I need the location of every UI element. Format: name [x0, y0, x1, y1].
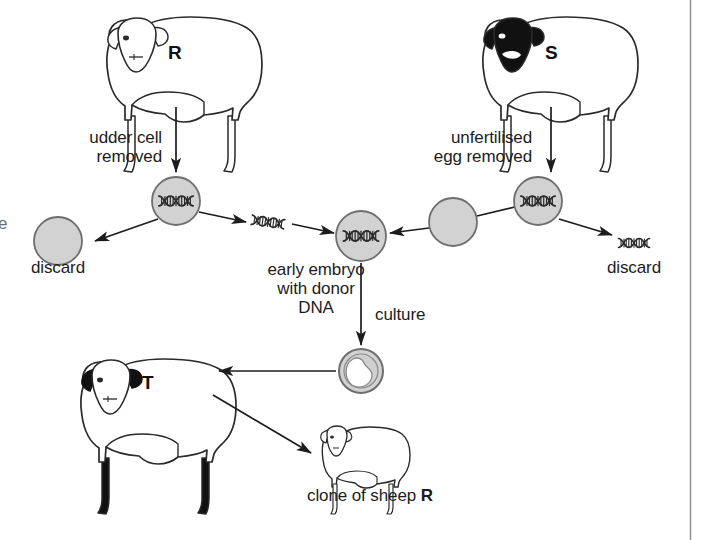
- arrow-udder-cell-to-dna: [199, 212, 246, 222]
- free-dna-discarded-egg: [618, 239, 649, 248]
- cell-blastocyst: [339, 349, 383, 393]
- arrow-egg-to-discard-dna: [559, 219, 612, 235]
- cloning-diagram-figure: e udder cell removed unfertilised egg re…: [0, 0, 708, 540]
- label-early-embryo: early embryo with donor DNA: [236, 260, 396, 317]
- sheep-letter-R: R: [168, 42, 182, 64]
- clipped-margin-text: e: [0, 214, 7, 234]
- cell-enucleated-egg: [429, 198, 477, 246]
- label-unfertilised-egg-removed: unfertilised egg removed: [398, 128, 532, 166]
- clone-label-text: clone of sheep: [307, 486, 421, 505]
- cell-udder-cell-nucleus: [152, 177, 200, 225]
- cell-early-embryo: [336, 211, 386, 261]
- clone-label-sheep-id: R: [421, 486, 433, 505]
- label-culture: culture: [375, 305, 425, 324]
- label-discard-right: discard: [586, 258, 682, 277]
- sheep-letter-S: S: [545, 42, 558, 64]
- arrow-dna-to-embryo: [292, 224, 334, 233]
- free-dna-donor-transfer: [251, 215, 285, 229]
- label-udder-cell-removed: udder cell removed: [28, 128, 162, 166]
- cell-unfertilised-egg-nucleus: [514, 177, 562, 225]
- label-clone-of-sheep: clone of sheep R: [258, 486, 482, 505]
- sheep-T-illustration: [81, 359, 236, 514]
- label-discard-left: discard: [10, 258, 106, 277]
- sheep-letter-T: T: [142, 372, 154, 394]
- arrow-enucleated-egg-to-embryo: [390, 228, 429, 233]
- connector-egg-to-enucleated-egg: [477, 207, 515, 216]
- arrow-udder-cell-to-discard: [95, 219, 158, 241]
